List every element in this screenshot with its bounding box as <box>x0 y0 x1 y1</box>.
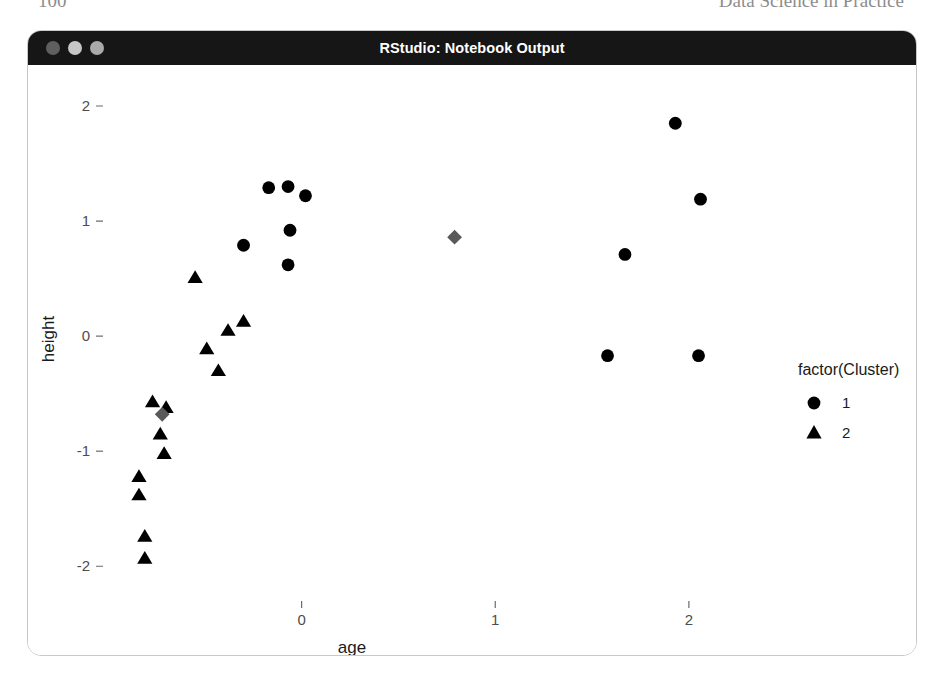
data-point-triangle <box>137 529 152 542</box>
series-1 <box>237 117 707 362</box>
x-tick-label: 0 <box>297 611 305 628</box>
legend-entry-label: 1 <box>842 394 850 411</box>
data-point-triangle <box>157 446 172 459</box>
data-point-circle <box>694 193 707 206</box>
y-tick-label: 0 <box>82 327 90 344</box>
data-point-circle <box>601 349 614 362</box>
data-point-triangle <box>188 270 203 283</box>
data-point-circle <box>282 258 295 271</box>
data-point-triangle <box>220 323 235 336</box>
y-tick-label: -2 <box>77 557 90 574</box>
close-button[interactable] <box>46 41 60 55</box>
data-point-triangle <box>145 394 160 407</box>
data-point-triangle <box>153 427 168 440</box>
y-axis-title: height <box>39 316 58 363</box>
page-running-title: Data Science in Practice <box>719 0 904 12</box>
y-tick-label: 2 <box>82 97 90 114</box>
data-point-triangle <box>199 342 214 355</box>
legend-entry-label: 2 <box>842 424 850 441</box>
page-running-header: 100 Data Science in Practice <box>0 0 944 14</box>
data-point-triangle <box>211 363 226 376</box>
page-folio-number: 100 <box>38 0 67 12</box>
window-title-bar[interactable]: RStudio: Notebook Output <box>28 31 916 65</box>
window-title: RStudio: Notebook Output <box>28 40 916 56</box>
x-axis-title: age <box>338 638 366 655</box>
x-tick-label: 1 <box>491 611 499 628</box>
data-point-circle <box>692 349 705 362</box>
centroid-diamond <box>447 230 462 245</box>
data-point-circle <box>284 224 297 237</box>
plot-canvas: -2-1012012ageheightfactor(Cluster)12 <box>28 65 916 655</box>
data-point-triangle <box>131 469 146 482</box>
x-tick-label: 2 <box>685 611 693 628</box>
data-point-triangle <box>236 314 251 327</box>
y-tick-label: 1 <box>82 212 90 229</box>
data-point-circle <box>282 180 295 193</box>
window-traffic-lights <box>46 41 104 55</box>
legend-title: factor(Cluster) <box>798 361 899 378</box>
legend-key-triangle-icon[interactable] <box>806 425 821 439</box>
legend: factor(Cluster)12 <box>798 361 899 441</box>
data-point-circle <box>237 239 250 252</box>
y-tick-label: -1 <box>77 442 90 459</box>
rstudio-notebook-output-window: RStudio: Notebook Output -2-1012012agehe… <box>27 30 917 656</box>
data-point-circle <box>262 181 275 194</box>
legend-key-circle-icon[interactable] <box>808 397 821 410</box>
data-point-triangle <box>131 488 146 501</box>
minimize-button[interactable] <box>68 41 82 55</box>
data-point-circle <box>669 117 682 130</box>
scatter-plot: -2-1012012ageheightfactor(Cluster)12 <box>28 65 916 655</box>
zoom-button[interactable] <box>90 41 104 55</box>
data-point-triangle <box>137 551 152 564</box>
data-point-circle <box>619 248 632 261</box>
series-2 <box>131 270 251 563</box>
data-point-circle <box>299 189 312 202</box>
series-centroids <box>155 230 462 422</box>
